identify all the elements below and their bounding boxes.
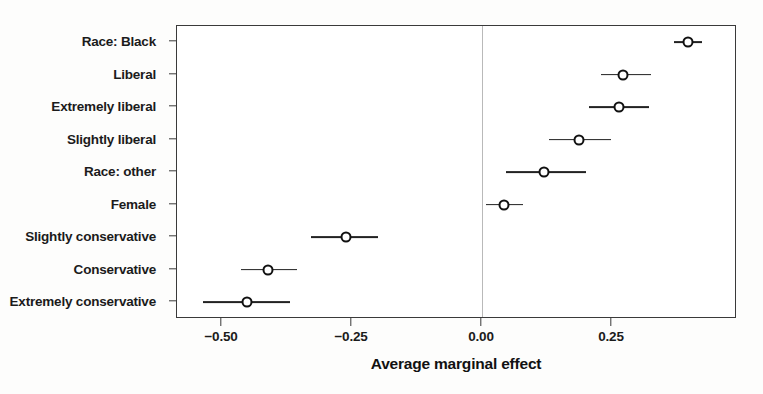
y-axis-tick (169, 105, 176, 106)
x-axis-tick (220, 318, 221, 326)
y-axis-label: Extremely conservative (10, 294, 156, 309)
estimate-point-marker (613, 102, 624, 113)
x-axis-tick-label: −0.25 (334, 329, 367, 344)
y-axis-label: Slightly conservative (25, 229, 156, 244)
x-axis-tick-label: −0.50 (204, 329, 237, 344)
y-axis-label: Slightly liberal (67, 131, 156, 146)
x-axis-tick (350, 318, 351, 326)
y-axis-label: Conservative (74, 261, 156, 276)
y-axis-tick (169, 300, 176, 301)
x-axis-tick (610, 318, 611, 326)
coefficient-plot-figure: Race: BlackLiberalExtremely liberalSligh… (0, 0, 763, 394)
zero-reference-line (482, 26, 483, 317)
y-axis-label: Liberal (113, 66, 156, 81)
estimate-point-marker (498, 199, 509, 210)
y-axis-tick (169, 203, 176, 204)
y-axis-label: Extremely liberal (51, 99, 156, 114)
estimate-point-marker (340, 232, 351, 243)
y-axis-tick (169, 170, 176, 171)
y-axis-tick (169, 40, 176, 41)
y-axis-label: Race: Black (82, 34, 156, 49)
y-axis-tick (169, 268, 176, 269)
y-axis-tick (169, 138, 176, 139)
estimate-point-marker (574, 134, 585, 145)
plot-area (176, 25, 736, 318)
y-axis-tick (169, 73, 176, 74)
estimate-point-marker (682, 37, 693, 48)
x-axis-title: Average marginal effect (176, 355, 736, 373)
y-axis-label: Female (111, 196, 156, 211)
y-axis: Race: BlackLiberalExtremely liberalSligh… (0, 25, 168, 318)
x-axis-tick (480, 318, 481, 326)
y-axis-label: Race: other (84, 164, 156, 179)
x-axis-tick-label: 0.00 (468, 329, 493, 344)
estimate-point-marker (617, 69, 628, 80)
estimate-point-marker (538, 167, 549, 178)
estimate-point-marker (241, 297, 252, 308)
y-axis-tick (169, 235, 176, 236)
x-axis-tick-label: 0.25 (598, 329, 623, 344)
estimate-point-marker (262, 264, 273, 275)
